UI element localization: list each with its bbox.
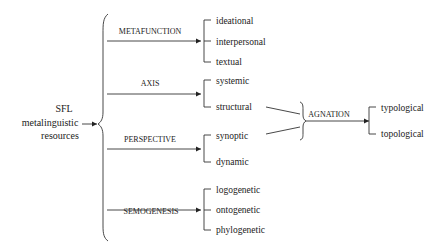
root-node: SFL metalinguistic resources: [22, 103, 79, 141]
dimension-axis: AXIS systemic structural: [107, 76, 252, 112]
agnation: AGNATION typological topological: [266, 102, 424, 140]
dimension-label: METAFUNCTION: [119, 27, 182, 36]
option-bracket: [204, 189, 211, 230]
agnation-link-synoptic: [266, 127, 300, 134]
option-ideational: ideational: [216, 16, 254, 26]
dimension-label: PERSPECTIVE: [124, 135, 176, 144]
main-brace: [98, 14, 108, 241]
root-line-1: SFL: [55, 103, 72, 114]
option-logogenetic: logogenetic: [216, 185, 260, 195]
root-line-3: resources: [41, 130, 79, 141]
dimension-metafunction: METAFUNCTION ideational interpersonal te…: [107, 16, 266, 67]
dimension-label: AXIS: [141, 79, 160, 88]
dimension-label: SEMOGENESIS: [123, 207, 178, 216]
root-line-2: metalinguistic: [22, 117, 79, 128]
option-systemic: systemic: [216, 76, 249, 86]
option-topological: topological: [381, 129, 424, 139]
dimension-perspective: PERSPECTIVE synoptic dynamic: [107, 131, 249, 167]
option-bracket: [204, 80, 211, 107]
option-synoptic: synoptic: [216, 131, 248, 141]
agnation-label: AGNATION: [308, 110, 350, 119]
option-structural: structural: [216, 102, 252, 112]
sfl-diagram: SFL metalinguistic resources METAFUNCTIO…: [0, 0, 448, 251]
option-bracket: [204, 135, 211, 162]
option-textual: textual: [216, 57, 242, 67]
option-typological: typological: [381, 103, 424, 113]
option-dynamic: dynamic: [216, 157, 249, 167]
option-interpersonal: interpersonal: [216, 37, 266, 47]
agnation-link-structural: [266, 107, 300, 114]
option-ontogenetic: ontogenetic: [216, 205, 260, 215]
option-phylogenetic: phylogenetic: [216, 225, 265, 235]
agnation-brace: [300, 102, 306, 140]
dimension-semogenesis: SEMOGENESIS logogenetic ontogenetic phyl…: [107, 185, 265, 235]
agnation-bracket: [369, 107, 376, 134]
